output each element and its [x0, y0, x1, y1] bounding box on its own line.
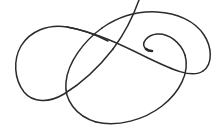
drawing-canvas [0, 0, 222, 129]
canvas-background [0, 0, 222, 129]
line-drawing-svg [0, 0, 222, 129]
